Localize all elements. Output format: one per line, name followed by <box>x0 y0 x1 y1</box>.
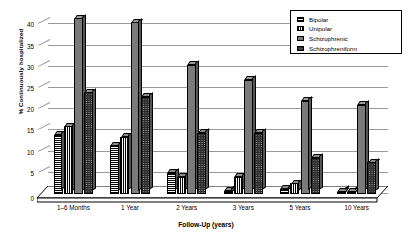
bar-group <box>167 16 207 194</box>
legend-swatch-icon <box>297 17 304 22</box>
bar <box>311 158 320 194</box>
bar <box>74 18 83 194</box>
bar <box>337 192 346 194</box>
legend-item: Schizophreniform <box>297 43 401 53</box>
legend-item: Bipolar <box>297 15 401 25</box>
legend-item: Schizophrenic <box>297 34 401 44</box>
y-axis-tick-label: 10 <box>27 149 34 156</box>
bar-side-face <box>375 158 379 191</box>
legend-swatch-icon <box>297 46 304 51</box>
y-axis-tick-label: 5 <box>30 170 34 177</box>
legend-item: Unipolar <box>297 24 401 34</box>
bar <box>347 192 356 194</box>
bar <box>167 173 176 194</box>
bar <box>290 183 299 194</box>
bar-group <box>110 16 150 194</box>
bar <box>244 80 253 194</box>
legend-label: Schizophrenic <box>309 35 348 42</box>
legend-label: Unipolar <box>309 25 332 32</box>
bar <box>254 133 263 194</box>
bar <box>110 145 119 194</box>
bar <box>224 191 233 194</box>
x-axis-tick-label: 3 Years <box>233 204 254 211</box>
legend-label: Schizophreniform <box>309 45 357 52</box>
legend-swatch-icon <box>297 26 304 31</box>
y-axis-tick-label: 30 <box>27 64 34 71</box>
x-axis-tick-label: 1 Year <box>121 204 139 211</box>
bar-side-face <box>319 154 323 191</box>
y-axis-tick-label: 40 <box>27 21 34 28</box>
bar-side-face <box>262 128 266 190</box>
bar-group <box>54 16 94 194</box>
bar <box>187 65 196 194</box>
bar-side-face <box>205 128 209 190</box>
bar <box>280 189 289 194</box>
bar <box>197 133 206 194</box>
x-axis-title: Follow-Up (years) <box>0 221 412 228</box>
bar <box>177 177 186 194</box>
y-axis-tick-label: 35 <box>27 43 34 50</box>
bar <box>54 135 63 194</box>
bar <box>131 22 140 194</box>
bar <box>357 105 366 194</box>
legend-label: Bipolar <box>309 16 328 23</box>
bar <box>120 137 129 194</box>
y-axis-tick-label: 25 <box>27 85 34 92</box>
y-axis-tick-label: 0 <box>30 195 34 202</box>
x-axis-tick-label: 10 Years <box>344 204 369 211</box>
y-axis-title: % Continuously hospitalized <box>17 2 24 142</box>
bar-chart: % Continuously hospitalized 051015202530… <box>0 0 412 243</box>
bar-side-face <box>149 92 153 190</box>
bar-side-face <box>92 88 96 191</box>
x-axis-tick-label: 1–6 Months <box>57 204 90 211</box>
bar <box>301 101 310 194</box>
legend-swatch-icon <box>297 36 304 41</box>
bar <box>64 126 73 194</box>
x-axis-tick-label: 2 Years <box>176 204 197 211</box>
y-axis-tick-label: 15 <box>27 127 34 134</box>
y-axis-tick-label: 20 <box>27 106 34 113</box>
bar <box>141 97 150 194</box>
bar-group <box>224 16 264 194</box>
x-axis-tick-label: 5 Years <box>289 204 310 211</box>
legend: BipolarUnipolarSchizophrenicSchizophreni… <box>290 10 402 54</box>
bar <box>84 92 93 194</box>
bar <box>367 162 376 194</box>
bar <box>234 177 243 194</box>
